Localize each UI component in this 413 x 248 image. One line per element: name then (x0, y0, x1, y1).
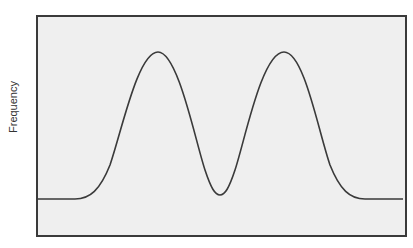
distribution-line (38, 52, 403, 199)
bimodal-curve (0, 0, 413, 248)
y-axis-label: Frequency (5, 117, 21, 133)
